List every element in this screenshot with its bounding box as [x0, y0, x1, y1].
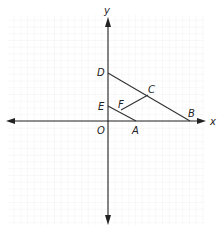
y-axis-label: y	[103, 5, 111, 16]
origin-label: O	[97, 125, 105, 136]
point-C-label: C	[148, 84, 155, 95]
x-axis-label: x	[209, 116, 216, 127]
point-B-label: B	[188, 108, 195, 119]
grid-background	[8, 15, 204, 225]
point-E-label: E	[98, 101, 105, 112]
point-F-label: F	[118, 99, 124, 110]
coordinate-diagram: y x O D E A B C F	[0, 0, 224, 233]
point-A-label: A	[131, 125, 139, 136]
point-D-label: D	[97, 67, 105, 78]
